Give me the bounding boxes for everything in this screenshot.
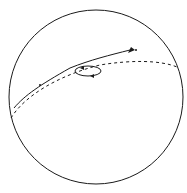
circulation-loop (75, 66, 101, 76)
sphere-outline (9, 10, 183, 184)
loop-arrow-icon (90, 74, 94, 78)
diagram-canvas (0, 0, 187, 193)
point-marker (135, 49, 137, 51)
sphere-diagram (0, 0, 187, 193)
solid-path-curve (14, 50, 130, 108)
dashed-great-circle (11, 61, 177, 118)
point-marker-left (39, 84, 41, 86)
